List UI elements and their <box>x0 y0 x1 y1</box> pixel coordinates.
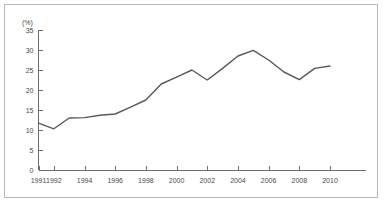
x-axis-tick-label: 2004 <box>230 177 246 184</box>
y-axis-tick-label: 5 <box>30 147 34 154</box>
y-axis-tick-label: 25 <box>26 67 34 74</box>
y-axis-tick-labels: 05101520253035 <box>26 27 34 174</box>
x-axis-tick-label: 2000 <box>169 177 185 184</box>
x-axis-tick-label: 1994 <box>77 177 93 184</box>
x-axis-tick-label: 1991 <box>31 177 47 184</box>
x-axis-tick-label: 2006 <box>261 177 277 184</box>
y-axis-tick-marks <box>39 31 43 171</box>
y-axis-tick-label: 30 <box>26 47 34 54</box>
x-axis-tick-labels: 1991199219941996199820002002200420062008… <box>31 177 338 184</box>
chart-svg: (%) 05101520253035 199119921994199619982… <box>0 0 386 207</box>
x-axis-tick-label: 2002 <box>199 177 215 184</box>
y-axis-tick-label: 15 <box>26 107 34 114</box>
x-axis-tick-label: 1998 <box>138 177 154 184</box>
x-axis-tick-label: 1996 <box>107 177 123 184</box>
data-series-line <box>39 50 331 128</box>
x-axis-tick-label: 1992 <box>46 177 62 184</box>
x-axis-tick-label: 2010 <box>322 177 338 184</box>
y-axis-tick-label: 35 <box>26 27 34 34</box>
y-axis-tick-label: 0 <box>30 167 34 174</box>
line-chart: (%) 05101520253035 199119921994199619982… <box>0 0 386 207</box>
x-axis-tick-marks <box>40 166 331 170</box>
x-axis-tick-label: 2008 <box>292 177 308 184</box>
y-axis-tick-label: 20 <box>26 87 34 94</box>
y-axis-tick-label: 10 <box>26 127 34 134</box>
